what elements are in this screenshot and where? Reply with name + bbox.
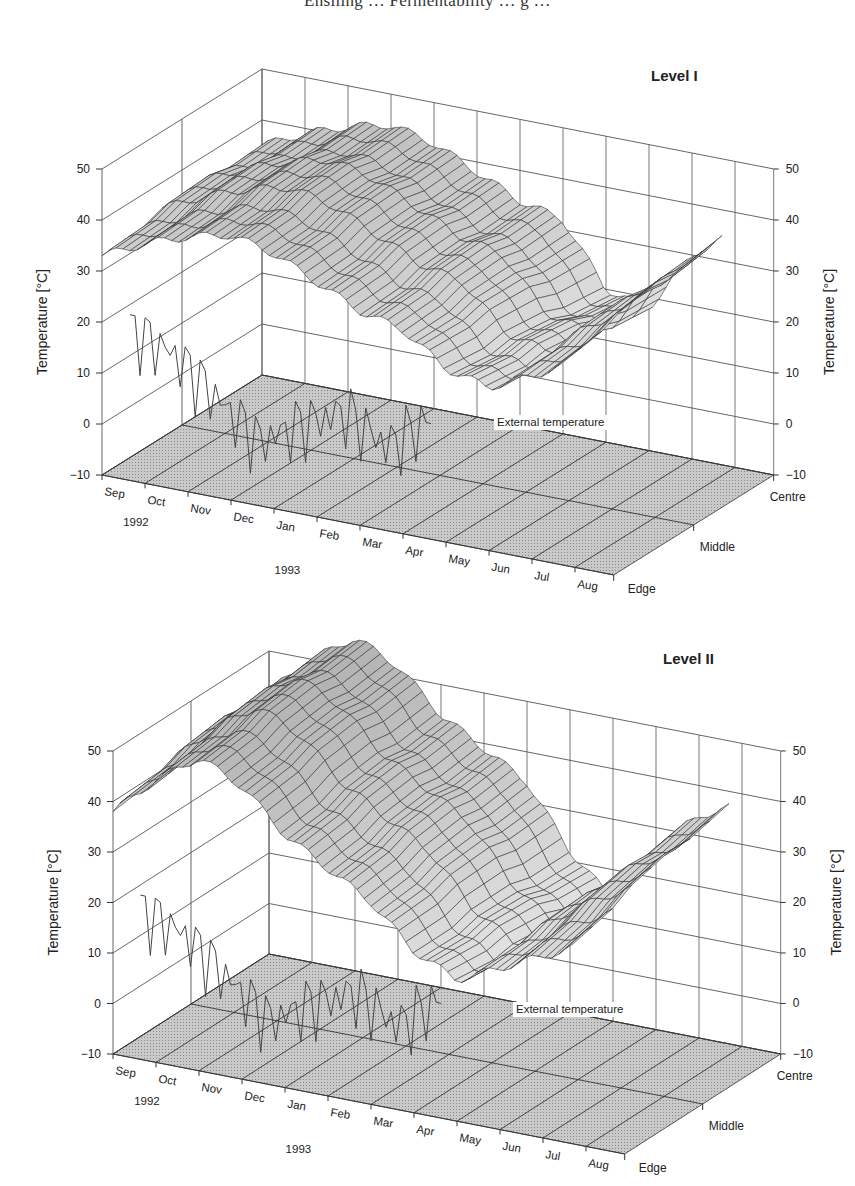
z-tick-label-left: 40 (77, 213, 91, 227)
z-tick-label-right: 20 (786, 315, 800, 329)
month-label: Sep (115, 1064, 137, 1079)
surface-plot-level-2: 50403020100−1050403020100−10Temperature … (0, 590, 855, 1186)
month-label: Sep (104, 485, 126, 500)
depth-label: Centre (777, 1069, 813, 1083)
month-label: Mar (362, 536, 384, 551)
month-label: Oct (158, 1073, 178, 1088)
z-tick-label-left: 0 (94, 997, 101, 1011)
z-tick-label-right: 40 (793, 794, 807, 808)
z-tick-label-right: 40 (786, 213, 800, 227)
z-tick-label-left: 50 (88, 744, 102, 758)
z-tick-label-right: 50 (786, 162, 800, 176)
month-label: Jun (491, 561, 511, 576)
z-tick-label-left: 10 (88, 946, 102, 960)
month-label: Mar (373, 1115, 395, 1130)
month-label: Jul (534, 569, 550, 583)
z-tick-label-right: 20 (793, 895, 807, 909)
z-tick-label-left: 10 (77, 366, 91, 380)
month-label: May (448, 552, 472, 567)
year-label-1993: 1993 (275, 564, 301, 576)
depth-label: Middle (700, 540, 736, 554)
z-tick-label-right: −10 (793, 1047, 814, 1061)
z-tick-label-right: 0 (786, 417, 793, 431)
year-label-1992: 1992 (123, 516, 149, 528)
month-label: Apr (416, 1123, 436, 1138)
z-tick-label-left: 30 (77, 264, 91, 278)
z-tick-label-right: 10 (786, 366, 800, 380)
month-label: Dec (244, 1089, 266, 1104)
chart-level-1: 50403020100−1050403020100−10Temperature … (0, 0, 855, 600)
surface-plot-level-1: 50403020100−1050403020100−10Temperature … (0, 0, 855, 600)
month-label: Oct (147, 494, 167, 509)
external-temperature-label: External temperature (497, 416, 604, 428)
external-temperature-label: External temperature (516, 1003, 623, 1015)
z-tick-label-left: 20 (77, 315, 91, 329)
month-label: Feb (319, 527, 340, 542)
z-tick-label-right: 30 (793, 845, 807, 859)
z-axis-title-right: Temperature [°C] (828, 849, 844, 955)
z-tick-label-right: 0 (793, 996, 800, 1010)
z-tick-label-left: 40 (88, 795, 102, 809)
month-label: Jan (276, 519, 296, 534)
month-label: Feb (330, 1106, 351, 1121)
depth-label: Centre (770, 490, 806, 504)
z-axis-title-right: Temperature [°C] (821, 269, 837, 375)
month-label: Nov (190, 502, 212, 517)
month-label: Jun (502, 1140, 522, 1155)
z-axis-title-left: Temperature [°C] (34, 269, 50, 375)
z-tick-label-right: 10 (793, 946, 807, 960)
month-label: Jan (287, 1098, 307, 1113)
depth-label: Middle (709, 1119, 745, 1133)
z-tick-label-right: 50 (793, 744, 807, 758)
z-tick-label-left: 50 (77, 162, 91, 176)
z-tick-label-left: 0 (83, 417, 90, 431)
month-label: Aug (588, 1157, 610, 1172)
chart-level-2: 50403020100−1050403020100−10Temperature … (0, 590, 855, 1186)
year-label-1992: 1992 (134, 1095, 160, 1107)
month-label: Jul (545, 1148, 561, 1162)
chart-title: Level I (651, 67, 698, 84)
z-tick-label-left: 30 (88, 845, 102, 859)
z-tick-label-right: −10 (786, 468, 807, 482)
chart-title: Level II (663, 650, 714, 667)
month-label: Nov (201, 1081, 223, 1096)
z-tick-label-left: −10 (70, 468, 91, 482)
z-tick-label-right: 30 (786, 264, 800, 278)
depth-label: Edge (639, 1161, 667, 1175)
month-label: Dec (233, 510, 255, 525)
z-tick-label-left: −10 (81, 1047, 102, 1061)
z-tick-label-left: 20 (88, 896, 102, 910)
z-axis-title-left: Temperature [°C] (45, 850, 61, 956)
year-label-1993: 1993 (286, 1143, 312, 1155)
month-label: Apr (405, 544, 425, 559)
month-label: May (459, 1131, 483, 1146)
